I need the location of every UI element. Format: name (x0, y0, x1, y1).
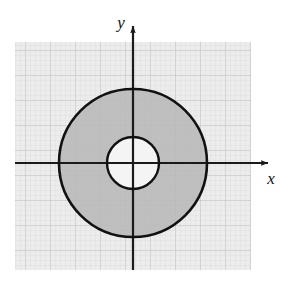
coordinate-plane-figure: x y (0, 0, 290, 290)
y-axis-label: y (115, 13, 125, 32)
figure-container: x y (0, 0, 290, 290)
x-axis-label: x (266, 169, 275, 188)
